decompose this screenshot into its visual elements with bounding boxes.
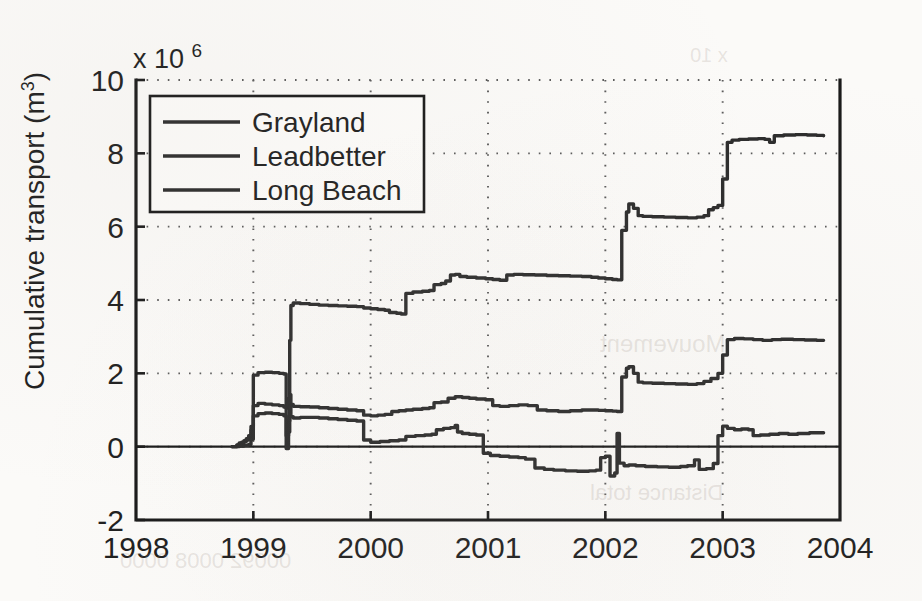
legend-label-grayland[interactable]: Grayland bbox=[252, 107, 366, 138]
x-tick-label-1999: 1999 bbox=[220, 531, 287, 564]
legend-label-long-beach[interactable]: Long Beach bbox=[252, 175, 401, 206]
y-axis-title-suffix: ) bbox=[19, 72, 50, 81]
y-tick-label-0: 0 bbox=[107, 431, 124, 464]
y-axis-exponent-label: x 10 6 bbox=[133, 40, 202, 74]
y-tick-label-6: 6 bbox=[107, 211, 124, 244]
y-axis-title-main: Cumulative transport (m bbox=[19, 91, 50, 390]
y-tick-label-2: 2 bbox=[107, 357, 124, 390]
x-tick-label-2001: 2001 bbox=[455, 531, 522, 564]
figure-container: 1998199920002001200220032004 -20246810 x… bbox=[0, 0, 922, 601]
y-axis-tick-labels: -20246810 bbox=[91, 64, 124, 537]
y-tick-label-8: 8 bbox=[107, 137, 124, 170]
y-axis-title-superscript: 3 bbox=[18, 81, 38, 91]
y-tick-label-4: 4 bbox=[107, 284, 124, 317]
chart-legend[interactable]: GraylandLeadbetterLong Beach bbox=[150, 96, 424, 212]
x-tick-label-2000: 2000 bbox=[337, 531, 404, 564]
series-line-long-beach bbox=[232, 406, 823, 476]
y-axis-title: Cumulative transport (m3) bbox=[18, 72, 50, 390]
x-tick-label-2004: 2004 bbox=[807, 531, 874, 564]
x-tick-label-2003: 2003 bbox=[689, 531, 756, 564]
cumulative-transport-chart: 1998199920002001200220032004 -20246810 x… bbox=[0, 0, 922, 601]
x-tick-label-2002: 2002 bbox=[572, 531, 639, 564]
exponent-power: 6 bbox=[192, 40, 203, 61]
y-tick-label-10: 10 bbox=[91, 64, 124, 97]
x-axis-tick-labels: 1998199920002001200220032004 bbox=[103, 531, 874, 564]
exponent-prefix: x 10 bbox=[133, 44, 192, 74]
y-tick-label-neg2: -2 bbox=[97, 504, 124, 537]
legend-label-leadbetter[interactable]: Leadbetter bbox=[252, 141, 386, 172]
